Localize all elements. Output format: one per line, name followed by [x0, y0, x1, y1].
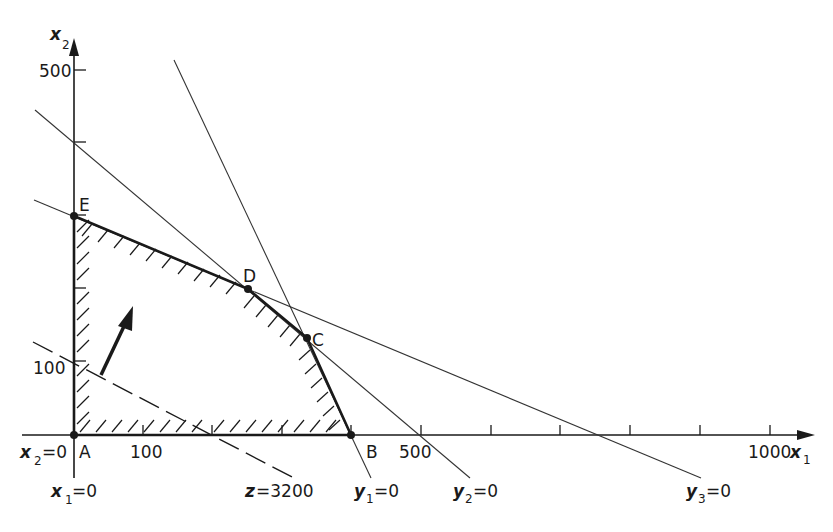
gradient-arrow-shaft	[101, 322, 126, 375]
x2-axis-arrow-icon	[69, 38, 79, 56]
label-x1-eq: =0	[72, 481, 97, 501]
y-tick-500: 500	[39, 61, 71, 81]
vertex-c	[303, 334, 311, 342]
label-x2-sub: 2	[34, 454, 42, 468]
vertex-e	[70, 212, 78, 220]
label-x2-var: x	[19, 442, 32, 462]
lp-diagram: E D C B A 100 500 1000 100 500 x 2 x 1 x…	[0, 0, 833, 532]
feasible-region-hatching	[77, 220, 340, 432]
label-y2-sub: 2	[465, 492, 473, 506]
label-y2-eq: =0	[473, 481, 498, 501]
vertex-d	[244, 285, 252, 293]
x-tick-100: 100	[130, 442, 162, 462]
label-y2-var: y	[453, 481, 465, 501]
y-tick-100: 100	[33, 358, 65, 378]
label-d: D	[243, 266, 256, 286]
label-a: A	[79, 442, 91, 462]
x-ticks	[143, 425, 770, 435]
label-y1-var: y	[354, 481, 366, 501]
vertex-a	[70, 431, 78, 439]
label-y1-eq: =0	[374, 481, 399, 501]
label-c: C	[312, 330, 324, 350]
constraint-lines	[34, 60, 701, 478]
label-e: E	[79, 195, 90, 215]
x-axis-title: x	[789, 442, 802, 462]
vertex-b	[347, 431, 355, 439]
x-tick-500: 500	[399, 442, 431, 462]
objective-line-z3200	[33, 342, 292, 477]
x-axis-subscript: 1	[803, 453, 811, 467]
label-y3-eq: =0	[706, 481, 731, 501]
gradient-arrow-icon	[118, 306, 133, 331]
label-y3-sub: 3	[698, 492, 706, 506]
y-axis-subscript: 2	[62, 38, 70, 52]
axes	[22, 50, 805, 478]
y-axis-title: x	[49, 24, 62, 44]
x1-axis-arrow-icon	[797, 430, 815, 440]
label-x1-var: x	[50, 481, 63, 501]
label-z-eq: =3200	[256, 481, 314, 501]
label-y1-sub: 1	[366, 492, 374, 506]
x-tick-1000: 1000	[748, 442, 791, 462]
label-y3-var: y	[686, 481, 698, 501]
label-x2-eq: =0	[42, 442, 67, 462]
feasible-region-boundary	[74, 216, 351, 435]
label-z-var: z	[244, 481, 255, 501]
vertices	[70, 212, 355, 439]
label-b: B	[366, 442, 378, 462]
